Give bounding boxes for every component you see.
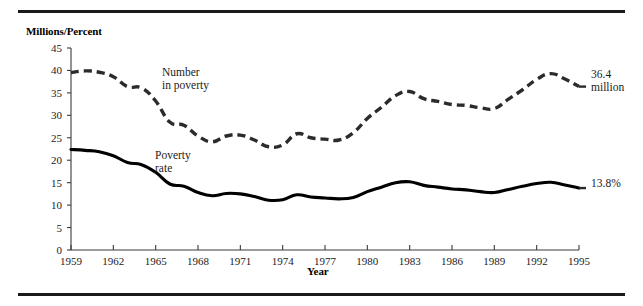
y-tick-label: 25 xyxy=(51,132,63,144)
x-tick-label: 1986 xyxy=(441,255,464,267)
y-axis-ticks: 051015202530354045 xyxy=(51,42,71,256)
number-in-poverty-label-line1: Number xyxy=(162,66,200,78)
y-tick-label: 5 xyxy=(57,222,63,234)
x-tick-label: 1959 xyxy=(60,255,83,267)
x-tick-label: 1968 xyxy=(187,255,210,267)
y-tick-label: 35 xyxy=(51,87,63,99)
x-tick-label: 1992 xyxy=(526,255,548,267)
number-end-value-line1: 36.4 xyxy=(591,68,611,80)
y-tick-label: 40 xyxy=(51,64,63,76)
x-tick-label: 1995 xyxy=(568,255,591,267)
y-tick-label: 10 xyxy=(51,199,63,211)
number-end-value-line2: million xyxy=(591,81,624,93)
series-number-in-poverty xyxy=(71,71,579,148)
y-tick-label: 45 xyxy=(51,42,63,54)
y-tick-label: 30 xyxy=(51,109,63,121)
x-tick-label: 1980 xyxy=(356,255,379,267)
x-tick-label: 1965 xyxy=(145,255,168,267)
x-tick-label: 1962 xyxy=(102,255,124,267)
x-tick-label: 1974 xyxy=(272,255,295,267)
y-tick-label: 15 xyxy=(51,177,63,189)
rate-end-value: 13.8% xyxy=(591,177,621,189)
poverty-chart-figure: Millions/Percent Year 051015202530354045… xyxy=(0,0,643,306)
x-axis-ticks: 1959196219651968197119741977198019831986… xyxy=(60,245,591,267)
x-tick-label: 1983 xyxy=(399,255,422,267)
poverty-rate-label-line1: Poverty xyxy=(155,149,191,162)
x-tick-label: 1989 xyxy=(483,255,506,267)
poverty-rate-label-line2: rate xyxy=(155,162,172,174)
number-in-poverty-label-line2: in poverty xyxy=(162,79,209,92)
y-tick-label: 20 xyxy=(51,154,63,166)
series-poverty-rate xyxy=(71,149,579,200)
x-tick-label: 1977 xyxy=(314,255,337,267)
x-tick-label: 1971 xyxy=(229,255,251,267)
chart-plot-area: 051015202530354045 195919621965196819711… xyxy=(0,0,643,306)
